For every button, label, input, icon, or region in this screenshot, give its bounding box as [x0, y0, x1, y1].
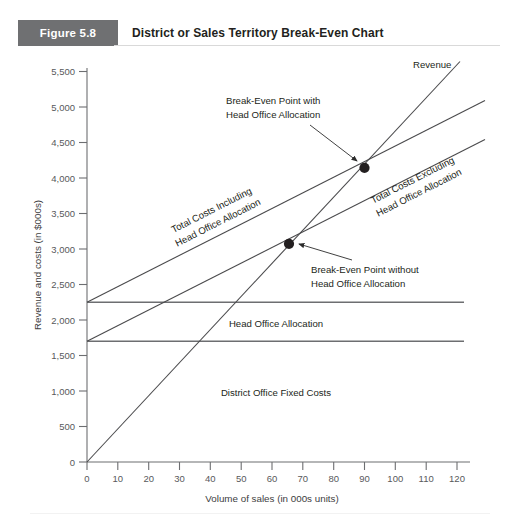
bep-without-allocation-label-line2: Head Office Allocation: [311, 278, 405, 289]
total-costs-including-label: Total Costs Including Head Office Alloca…: [167, 184, 262, 249]
x-tick-label: 10: [113, 473, 124, 484]
revenue-label: Revenue: [413, 59, 451, 70]
x-tick-label: 120: [449, 473, 465, 484]
head-office-allocation-band-label: Head Office Allocation: [229, 318, 323, 329]
x-tick-label: 90: [359, 473, 370, 484]
y-axis-tick-labels: 0 500 1,000 1,500 2,000 2,500 3,000 3,50…: [51, 66, 75, 468]
y-tick-label: 3,500: [51, 208, 75, 219]
bep-without-allocation-label-line1: Break-Even Point without: [311, 264, 419, 275]
x-tick-label: 60: [267, 473, 278, 484]
x-tick-label: 50: [236, 473, 247, 484]
y-tick-label: 3,000: [51, 244, 75, 255]
x-tick-label: 30: [174, 473, 185, 484]
y-tick-label: 2,500: [51, 279, 75, 290]
y-tick-label: 1,000: [51, 386, 75, 397]
bep-with-allocation-leader: [310, 125, 357, 161]
break-even-chart: 0 500 1,000 1,500 2,000 2,500 3,000 3,50…: [0, 0, 518, 526]
break-even-point-with-allocation-marker: [359, 163, 369, 173]
x-tick-label: 110: [419, 473, 434, 484]
break-even-point-without-allocation-marker: [284, 239, 294, 249]
bep-without-allocation-leader: [299, 244, 352, 260]
y-tick-label: 4,000: [51, 173, 75, 184]
bep-with-allocation-label-line2: Head Office Allocation: [226, 109, 320, 120]
y-axis-ticks: [79, 72, 87, 463]
x-tick-label: 40: [205, 473, 216, 484]
district-office-fixed-costs-band-label: District Office Fixed Costs: [221, 387, 331, 398]
y-tick-label: 2,000: [51, 315, 75, 326]
x-tick-label: 80: [328, 473, 339, 484]
y-tick-label: 500: [59, 421, 75, 432]
y-tick-label: 4,500: [51, 137, 75, 148]
bep-with-allocation-label-line1: Break-Even Point with: [226, 95, 320, 106]
x-tick-label: 70: [298, 473, 309, 484]
x-tick-label: 0: [84, 473, 89, 484]
x-axis-tick-labels: 0 10 20 30 40 50 60 70 80 90 100 110 120: [84, 473, 465, 484]
y-tick-label: 1,500: [51, 350, 75, 361]
revenue-line: [87, 62, 460, 463]
total-costs-including-line: [87, 101, 485, 303]
x-axis-title: Volume of sales (in 000s units): [205, 493, 338, 504]
total-costs-excluding-label: Total Costs Excluding Head Office Alloca…: [368, 154, 463, 219]
y-tick-label: 5,500: [51, 66, 75, 77]
x-axis-ticks: [87, 462, 457, 470]
y-tick-label: 0: [70, 457, 75, 468]
x-tick-label: 100: [387, 473, 403, 484]
y-axis-title: Revenue and costs (in $000s): [32, 200, 43, 330]
x-tick-label: 20: [143, 473, 154, 484]
y-tick-label: 5,000: [51, 102, 75, 113]
